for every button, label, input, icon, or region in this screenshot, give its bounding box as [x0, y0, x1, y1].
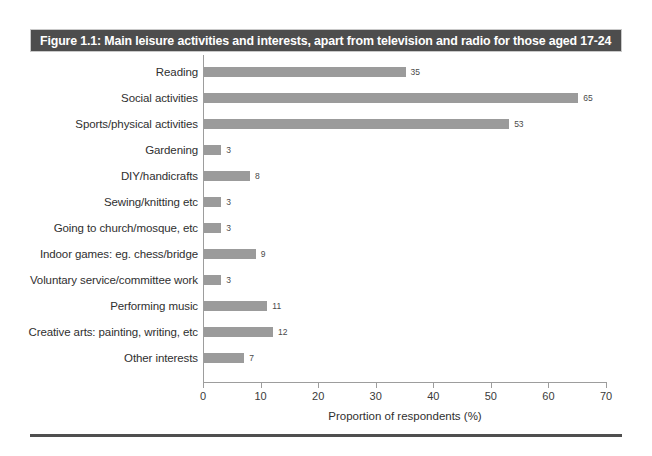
- figure-title-banner: Figure 1.1: Main leisure activities and …: [30, 29, 622, 52]
- chart-row: DIY/handicrafts8: [0, 163, 652, 189]
- chart-row: Sports/physical activities53: [0, 111, 652, 137]
- chart-row: Indoor games: eg. chess/bridge9: [0, 241, 652, 267]
- x-axis-tick: [203, 383, 204, 388]
- bar: [204, 145, 221, 155]
- category-label: Voluntary service/committee work: [0, 274, 198, 286]
- bar: [204, 223, 221, 233]
- x-axis-title: Proportion of respondents (%): [203, 410, 607, 422]
- x-axis-tick-label: 40: [427, 390, 439, 402]
- bottom-rule: [30, 434, 622, 437]
- x-axis-tick-label: 30: [370, 390, 382, 402]
- category-label: Reading: [0, 66, 198, 78]
- chart-row: Gardening3: [0, 137, 652, 163]
- bar-value-label: 53: [514, 119, 523, 129]
- bar-group: 9: [204, 249, 266, 259]
- x-axis-tick: [491, 383, 492, 388]
- bar-group: 35: [204, 67, 420, 77]
- bar-group: 8: [204, 171, 260, 181]
- chart-row: Creative arts: painting, writing, etc12: [0, 319, 652, 345]
- category-label: Other interests: [0, 352, 198, 364]
- x-axis-line: [203, 382, 607, 383]
- chart-row: Other interests7: [0, 345, 652, 371]
- chart-row: Reading35: [0, 59, 652, 85]
- figure-title-text: Figure 1.1: Main leisure activities and …: [31, 34, 611, 48]
- x-axis-tick: [376, 383, 377, 388]
- bar: [204, 67, 406, 77]
- bar-group: 7: [204, 353, 254, 363]
- bar-value-label: 9: [261, 249, 266, 259]
- bar: [204, 93, 578, 103]
- bar-group: 12: [204, 327, 288, 337]
- bar-group: 11: [204, 301, 281, 311]
- x-axis-tick-label: 10: [254, 390, 266, 402]
- category-label: Social activities: [0, 92, 198, 104]
- bar-value-label: 7: [249, 353, 254, 363]
- category-label: Creative arts: painting, writing, etc: [0, 326, 198, 338]
- bar: [204, 353, 244, 363]
- category-label: DIY/handicrafts: [0, 170, 198, 182]
- bar: [204, 119, 509, 129]
- bar-value-label: 8: [255, 171, 260, 181]
- y-axis-line: [203, 55, 204, 382]
- x-axis-tick-label: 50: [485, 390, 497, 402]
- x-axis-tick: [548, 383, 549, 388]
- category-label: Performing music: [0, 300, 198, 312]
- chart-row: Going to church/mosque, etc3: [0, 215, 652, 241]
- category-label: Going to church/mosque, etc: [0, 222, 198, 234]
- bar-group: 3: [204, 145, 231, 155]
- bar-group: 3: [204, 275, 231, 285]
- bar-group: 3: [204, 223, 231, 233]
- x-axis-tick: [606, 383, 607, 388]
- bar-group: 3: [204, 197, 231, 207]
- bar-value-label: 3: [226, 197, 231, 207]
- x-axis-tick: [318, 383, 319, 388]
- x-axis-tick-label: 0: [200, 390, 206, 402]
- x-axis-tick: [433, 383, 434, 388]
- chart-plot-area: Reading35Social activities65Sports/physi…: [0, 55, 652, 385]
- chart-row: Performing music11: [0, 293, 652, 319]
- bar: [204, 275, 221, 285]
- bar: [204, 249, 256, 259]
- bar: [204, 171, 250, 181]
- chart-row: Voluntary service/committee work3: [0, 267, 652, 293]
- bar-value-label: 12: [278, 327, 287, 337]
- x-axis-tick: [261, 383, 262, 388]
- bar-value-label: 3: [226, 145, 231, 155]
- bar-value-label: 3: [226, 223, 231, 233]
- category-label: Sports/physical activities: [0, 118, 198, 130]
- figure-container: Figure 1.1: Main leisure activities and …: [0, 0, 652, 456]
- x-axis-tick-label: 70: [600, 390, 612, 402]
- bar: [204, 301, 267, 311]
- bar-group: 65: [204, 93, 593, 103]
- chart-row: Social activities65: [0, 85, 652, 111]
- chart-row: Sewing/knitting etc3: [0, 189, 652, 215]
- bar-value-label: 3: [226, 275, 231, 285]
- bar: [204, 197, 221, 207]
- bar-value-label: 65: [583, 93, 592, 103]
- bar: [204, 327, 273, 337]
- x-axis-tick-label: 60: [542, 390, 554, 402]
- bar-group: 53: [204, 119, 524, 129]
- category-label: Indoor games: eg. chess/bridge: [0, 248, 198, 260]
- bar-value-label: 11: [272, 301, 281, 311]
- bar-value-label: 35: [411, 67, 420, 77]
- x-axis-tick-label: 20: [312, 390, 324, 402]
- category-label: Gardening: [0, 144, 198, 156]
- category-label: Sewing/knitting etc: [0, 196, 198, 208]
